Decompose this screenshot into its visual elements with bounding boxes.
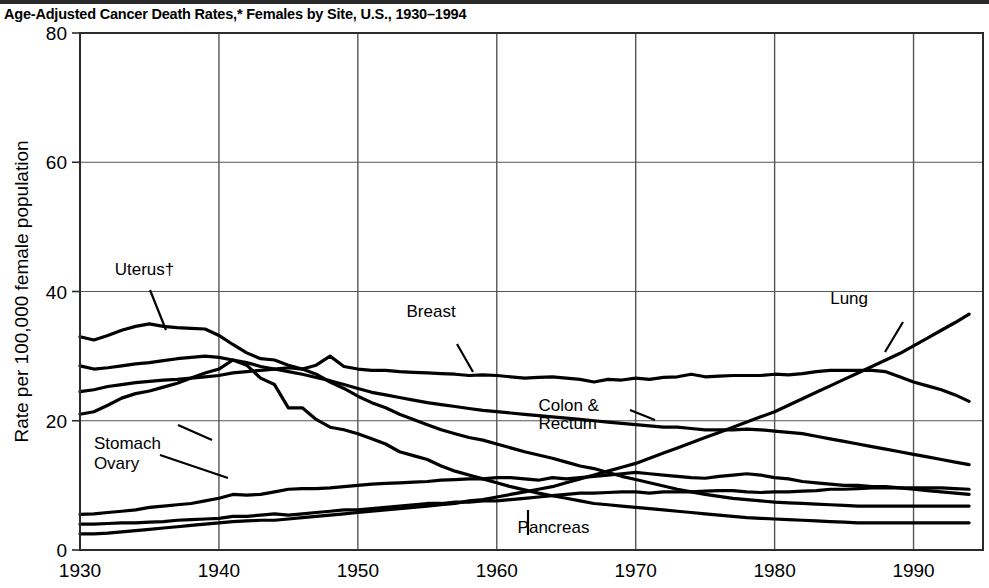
annotation-breast: Breast [406,302,455,321]
cancer-death-rates-line-chart: 0204060801930194019501960197019801990 Ut… [0,0,989,588]
leader-line [630,410,655,420]
data-series [80,314,969,534]
series-line-breast [80,356,969,401]
y-axis-title: Rate per 100,000 female population [11,140,32,442]
annotation-uterus: Uterus† [115,260,175,279]
annotation-rectum: Rectum [538,414,597,433]
leader-line [160,455,228,478]
leader-line [885,322,903,352]
y-tick-label: 20 [46,411,67,432]
y-tick-label: 60 [46,152,67,173]
annotation-lung: Lung [830,289,868,308]
y-tick-label: 0 [56,540,67,561]
x-tick-label: 1950 [337,560,379,581]
x-tick-label: 1980 [753,560,795,581]
series-line-colon-rectum [80,356,969,465]
x-tick-label: 1990 [892,560,934,581]
x-tick-label: 1970 [615,560,657,581]
x-tick-label: 1930 [59,560,101,581]
y-tick-label: 80 [46,23,67,44]
y-axis-label: Rate per 100,000 female population [11,140,32,442]
x-tick-label: 1940 [198,560,240,581]
chart-figure: 0204060801930194019501960197019801990 Ut… [0,0,989,588]
annotation-colon: Colon & [538,396,599,415]
annotation-ovary: Ovary [94,454,140,473]
leader-line [457,344,473,372]
leader-line [178,425,212,440]
x-tick-label: 1960 [476,560,518,581]
annotation-stomach: Stomach [94,434,161,453]
y-tick-label: 40 [46,282,67,303]
